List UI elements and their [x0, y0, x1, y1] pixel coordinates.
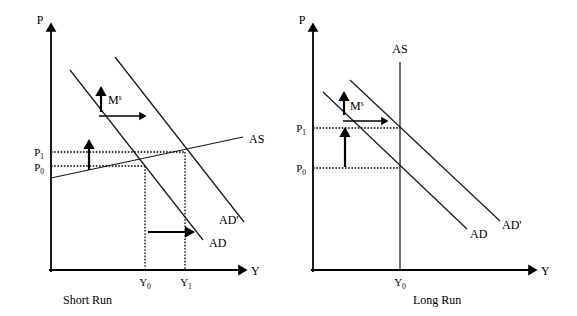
long-run-p1-tick: P1	[296, 122, 306, 137]
short-run-p0-tick: P0	[34, 161, 44, 176]
long-run-y0-tick: Y0	[394, 276, 406, 291]
panel-long-run: P Y AS AD AD' P1 P0 Y0 Ms Long Run	[296, 13, 550, 307]
short-run-y0-tick: Y0	[139, 276, 151, 291]
long-run-caption: Long Run	[413, 293, 461, 307]
short-run-y1-tick: Y1	[180, 276, 192, 291]
long-run-y-axis-label: P	[299, 13, 306, 27]
short-run-as-curve	[51, 137, 243, 178]
short-run-p1-tick: P1	[34, 146, 44, 161]
short-run-caption: Short Run	[63, 293, 112, 307]
long-run-ad-prime-label: AD'	[502, 218, 522, 232]
short-run-as-label: AS	[249, 132, 264, 146]
long-run-p0-tick: P0	[296, 162, 306, 177]
long-run-ms-label: Ms	[350, 99, 364, 113]
long-run-as-label: AS	[392, 42, 407, 56]
economics-diagram-figure: P Y AS AD AD' P1 P0 Y0 Y1 Ms Short Run	[0, 0, 577, 316]
short-run-ad-prime-curve	[115, 57, 244, 222]
diagram-svg: P Y AS AD AD' P1 P0 Y0 Y1 Ms Short Run	[0, 0, 577, 316]
short-run-ad-prime-label: AD'	[219, 213, 239, 227]
short-run-x-axis-label: Y	[251, 264, 260, 278]
short-run-ms-label: Ms	[108, 93, 122, 107]
panel-short-run: P Y AS AD AD' P1 P0 Y0 Y1 Ms Short Run	[34, 13, 264, 307]
long-run-ad-label: AD	[470, 227, 488, 241]
short-run-ad-label: AD	[209, 236, 227, 250]
long-run-x-axis-label: Y	[541, 264, 550, 278]
short-run-y-axis-label: P	[37, 13, 44, 27]
long-run-ad-prime-curve	[350, 80, 500, 221]
